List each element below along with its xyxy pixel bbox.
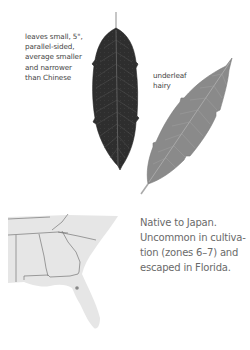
description-line: escaped in Florida. (140, 260, 246, 275)
range-description: Native to Japan. Uncommon in cultiva- ti… (140, 215, 246, 275)
upper-leaf-image (92, 12, 139, 170)
description-line: tion (zones 6–7) and (140, 245, 246, 260)
description-line: Native to Japan. (140, 215, 246, 230)
note-line: underleaf (153, 71, 187, 81)
note-line: parallel-sided, (25, 42, 83, 52)
note-line: average smaller (25, 52, 83, 62)
note-line: leaves small, 5", (25, 32, 83, 42)
underleaf-note: underleaf hairy (153, 71, 187, 91)
range-map (8, 214, 118, 329)
leaf-size-note: leaves small, 5", parallel-sided, averag… (25, 32, 83, 83)
note-line: hairy (153, 81, 187, 91)
note-line: and narrower (25, 63, 83, 73)
occurrence-marker (75, 286, 79, 290)
description-line: Uncommon in cultiva- (140, 230, 246, 245)
note-line: than Chinese (25, 73, 83, 83)
